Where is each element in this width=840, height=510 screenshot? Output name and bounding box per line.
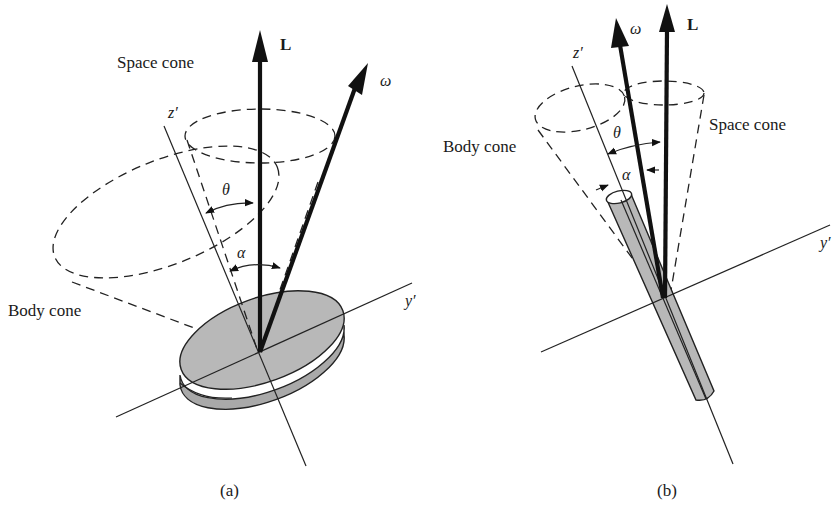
L-arrowhead-b [659,4,675,32]
space-cone-label-a: Space cone [117,53,194,72]
panel-a: y′ z′ L ω θ α Space cone Body cone (a) [8,30,416,500]
alpha-label-a: α [237,244,246,261]
L-vector-b [665,30,667,298]
space-cone-top-b [624,81,704,105]
caption-b: (b) [657,481,677,500]
alpha-arrow-left-b [596,185,608,190]
rod-body [605,188,714,400]
z-prime-label-b: z′ [572,44,583,61]
theta-label-a: θ [222,181,230,198]
space-cone-edge-right-b [670,95,704,296]
omega-arrowhead-b [611,18,629,48]
alpha-label-b: α [622,166,631,183]
caption-a: (a) [220,481,239,500]
y-prime-label-a: y′ [403,292,416,310]
L-arrowhead-a [252,30,268,62]
body-cone-base-a [35,119,296,305]
L-label-a: L [280,35,291,54]
alpha-arc-a [230,265,280,271]
theta-arc-b [608,142,660,154]
theta-arc-a [206,203,253,213]
panel-b: y′ z′ ω L θ α Space cone Body cone (b) [443,4,831,500]
omega-arrowhead-a [348,63,368,95]
body-cone-label-a: Body cone [8,301,81,320]
omega-label-b: ω [630,20,641,37]
body-cone-label-b: Body cone [443,137,516,156]
z-prime-label-a: z′ [167,104,178,121]
L-label-b: L [687,15,698,34]
space-cone-label-b: Space cone [709,115,786,134]
theta-label-b: θ [613,124,621,141]
rigid-body-precession-figure: y′ z′ L ω θ α Space cone Body cone (a) [0,0,840,510]
omega-label-a: ω [380,72,391,89]
y-prime-label-b: y′ [818,234,831,252]
